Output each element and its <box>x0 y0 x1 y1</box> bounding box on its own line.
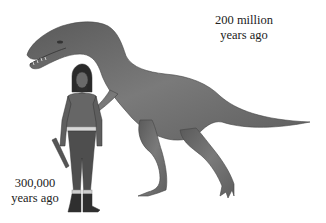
human-age-line1: 300,000 <box>0 176 70 191</box>
human-age-line2: years ago <box>0 191 70 206</box>
illustration-canvas: 200 million years ago 300,000 years ago <box>0 0 326 223</box>
human-age-label: 300,000 years ago <box>0 176 70 206</box>
dinosaur-age-line1: 200 million <box>196 13 292 28</box>
dinosaur-age-line2: years ago <box>196 28 292 43</box>
dinosaur-age-label: 200 million years ago <box>196 13 292 43</box>
